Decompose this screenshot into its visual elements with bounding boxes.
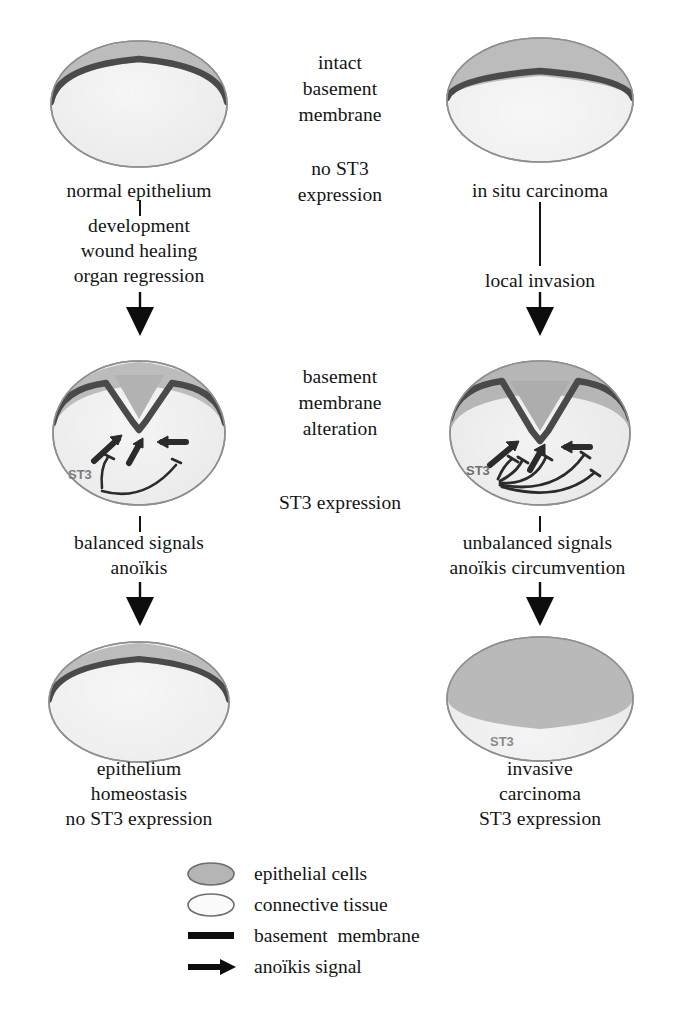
homeostatic-epithelium-illustration — [42, 630, 236, 770]
st3-label-left-middle: ST3 — [68, 467, 92, 482]
note-basement-membrane-alteration: basement membrane alteration — [250, 364, 430, 442]
arrow-local-invasion — [522, 292, 558, 341]
basement-membrane-swatch — [168, 932, 254, 939]
invasive-carcinoma-illustration: ST3 — [440, 625, 640, 773]
thick-down-arrow-icon — [522, 292, 558, 337]
figure-legend: epithelial cells connective tissue basem… — [0, 858, 681, 982]
cell-homeostatic-epithelium — [42, 630, 236, 770]
legend-item-basement-membrane: basement membrane — [168, 920, 681, 951]
epithelial-cells-swatch — [168, 860, 254, 888]
connective-tissue-swatch — [168, 891, 254, 919]
arrow-unbalanced-signals — [522, 582, 558, 631]
invading-carcinoma-illustration: ST3 — [442, 353, 638, 513]
gray-ellipse-icon — [185, 860, 237, 888]
caption-in-situ-carcinoma: in situ carcinoma — [415, 178, 665, 203]
cell-invading-carcinoma: ST3 — [442, 353, 638, 513]
legend-label-connective-tissue: connective tissue — [254, 894, 388, 916]
note-intact-basement-membrane: intact basement membrane — [250, 50, 430, 128]
connector-local-invasion — [536, 202, 544, 270]
thick-down-arrow-icon — [122, 292, 158, 337]
white-ellipse-icon — [185, 891, 237, 919]
legend-item-connective-tissue: connective tissue — [168, 889, 681, 920]
normal-epithelium-illustration — [44, 26, 234, 176]
legend-item-epithelial-cells: epithelial cells — [168, 858, 681, 889]
arrow-development — [122, 292, 158, 341]
right-arrow-icon — [184, 956, 238, 978]
remodelling-epithelium-illustration: ST3 — [44, 353, 234, 513]
st3-label-right-middle: ST3 — [466, 463, 490, 478]
st3-label-invasive-carcinoma: ST3 — [490, 734, 514, 749]
cell-in-situ-carcinoma — [440, 24, 640, 176]
cell-invasive-carcinoma: ST3 — [440, 625, 640, 773]
cell-remodelling-epithelium: ST3 — [44, 353, 234, 513]
anoikis-signal-swatch — [168, 956, 254, 978]
label-local-invasion-transition: local invasion — [415, 268, 665, 293]
cell-normal-epithelium — [44, 26, 234, 176]
legend-label-anoikis-signal: anoïkis signal — [254, 956, 362, 978]
legend-item-anoikis-signal: anoïkis signal — [168, 951, 681, 982]
thick-down-arrow-icon — [522, 582, 558, 627]
label-development-transition: development wound healing organ regressi… — [14, 213, 264, 288]
figure-canvas: normal epithelium development wound heal… — [0, 0, 681, 1034]
legend-label-basement-membrane: basement membrane — [254, 925, 420, 947]
thick-bar-icon — [188, 932, 234, 939]
caption-epithelium-homeostasis: epithelium homeostasis no ST3 expression — [4, 756, 274, 831]
arrow-balanced-signals — [122, 582, 158, 631]
note-st3-expression: ST3 expression — [235, 490, 445, 516]
label-unbalanced-signals-transition: unbalanced signals anoïkis circumvention — [395, 530, 680, 580]
legend-label-epithelial-cells: epithelial cells — [254, 863, 367, 885]
label-balanced-signals-transition: balanced signals anoïkis — [14, 530, 264, 580]
note-no-st3-expression: no ST3 expression — [250, 156, 430, 208]
thick-down-arrow-icon — [122, 582, 158, 627]
in-situ-carcinoma-illustration — [440, 24, 640, 176]
caption-invasive-carcinoma: invasive carcinoma ST3 expression — [410, 756, 670, 831]
